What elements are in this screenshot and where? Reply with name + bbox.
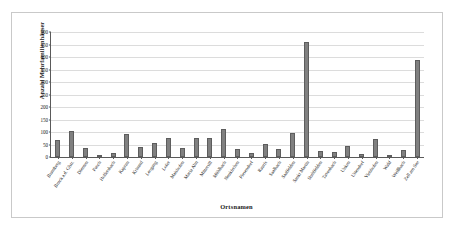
y-tick-label: 500 — [41, 29, 49, 35]
x-tick-label: Lofer — [161, 160, 171, 172]
bar-slot — [92, 32, 106, 157]
x-axis-title: Ortsnamen — [50, 203, 423, 210]
x-tick-label: Dienten — [76, 160, 89, 175]
x-label-slot: Rauris — [257, 159, 271, 205]
bar-slot — [383, 32, 397, 157]
bar — [304, 42, 309, 157]
bar-slot — [244, 32, 258, 157]
y-tick-label: 150 — [41, 117, 49, 123]
bar — [83, 148, 88, 158]
y-tick-label: 0 — [46, 154, 49, 160]
x-label-slot: Sankt Martin — [299, 159, 313, 205]
x-tick-label: Wald — [383, 160, 393, 171]
bar-slot — [120, 32, 134, 157]
bar — [401, 150, 406, 157]
bar-slot — [300, 32, 314, 157]
bar-slot — [286, 32, 300, 157]
x-label-slot: Taxenbach — [326, 159, 340, 205]
bar-slot — [189, 32, 203, 157]
bar-slot — [51, 32, 65, 157]
bar-slot — [355, 32, 369, 157]
bar — [138, 147, 143, 158]
bar-slot — [134, 32, 148, 157]
bar-slot — [231, 32, 245, 157]
x-label-slot: Krimml — [133, 159, 147, 205]
y-tick-label: 250 — [41, 92, 49, 98]
x-tick-label: Fusch — [92, 160, 103, 172]
y-tick-label: 400 — [41, 54, 49, 60]
bar — [263, 144, 268, 158]
bar-slot — [106, 32, 120, 157]
chart-figure-frame: Anzahl Mehrfamilienhäuser 50045040035030… — [11, 12, 443, 218]
bar-slot — [175, 32, 189, 157]
x-label-slot: Fusch — [91, 159, 105, 205]
bar — [415, 60, 420, 157]
bar-slot — [313, 32, 327, 157]
bar — [152, 143, 157, 158]
x-label-slot: Mühlbach — [216, 159, 230, 205]
x-label-slot: Kaprun — [119, 159, 133, 205]
bar — [55, 140, 60, 158]
x-label-slot: Maishofen — [174, 159, 188, 205]
bar — [290, 133, 295, 157]
x-tick-label: Unken — [340, 160, 351, 173]
bar-slot — [148, 32, 162, 157]
y-tick-label: 450 — [41, 42, 49, 48]
x-label-slot: Neukirchen — [230, 159, 244, 205]
x-tick-label: Leogang — [144, 160, 158, 177]
bar-series — [51, 32, 424, 157]
bar-slot — [341, 32, 355, 157]
x-label-slot: Viehhofen — [368, 159, 382, 205]
x-label-slot: Unken — [340, 159, 354, 205]
x-label-slot: Saalbach — [271, 159, 285, 205]
bar — [124, 134, 129, 158]
bar — [194, 138, 199, 157]
bar-slot — [162, 32, 176, 157]
bar — [221, 129, 226, 157]
bar — [180, 148, 185, 157]
bar — [69, 131, 74, 157]
bar-slot — [396, 32, 410, 157]
bar — [345, 146, 350, 157]
x-label-slot: Lofer — [161, 159, 175, 205]
y-tick-label: 300 — [41, 79, 49, 85]
bar-slot — [258, 32, 272, 157]
x-label-slot: Wald — [382, 159, 396, 205]
plot-area: 500450400350300250200150100500 — [50, 32, 424, 158]
x-label-slot: Mittersill — [202, 159, 216, 205]
bar — [166, 138, 171, 158]
bar-slot — [369, 32, 383, 157]
x-label-slot: Dienten — [78, 159, 92, 205]
bar-slot — [217, 32, 231, 157]
bar-slot — [272, 32, 286, 157]
x-label-slot: Uttendorf — [354, 159, 368, 205]
bar — [207, 138, 212, 157]
x-tick-label: Saalbach — [268, 160, 282, 177]
x-axis-tick-labels: BrambergBruck a.d. Glstr.DientenFuschHol… — [50, 159, 423, 205]
x-label-slot: Maria Alm — [188, 159, 202, 205]
bar — [276, 149, 281, 157]
x-label-slot: Hollersbach — [105, 159, 119, 205]
x-tick-label: Rauris — [257, 160, 268, 173]
bar — [235, 149, 240, 158]
y-tick-label: 50 — [43, 142, 48, 148]
y-tick-label: 350 — [41, 67, 49, 73]
bar-slot — [203, 32, 217, 157]
x-label-slot: Bruck a.d. Glstr. — [64, 159, 78, 205]
x-label-slot: Zell am See — [409, 159, 423, 205]
x-label-slot: Leogang — [147, 159, 161, 205]
bar-slot — [79, 32, 93, 157]
x-tick-label: Kaprun — [118, 160, 130, 175]
x-label-slot: Stuhlfelden — [312, 159, 326, 205]
y-tick-label: 100 — [41, 129, 49, 135]
y-tick-label: 200 — [41, 104, 49, 110]
bar-slot — [65, 32, 79, 157]
bar-slot — [327, 32, 341, 157]
x-tick-label: Krimml — [131, 160, 144, 175]
bar-slot — [410, 32, 424, 157]
x-label-slot: Weißbach — [395, 159, 409, 205]
x-label-slot: Piesendorf — [243, 159, 257, 205]
bar — [373, 139, 378, 157]
